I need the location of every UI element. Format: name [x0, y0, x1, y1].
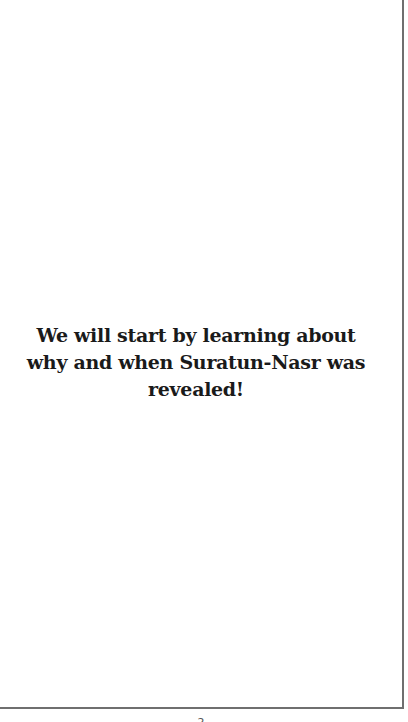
page-body-text: We will start by learning about why and …: [0, 322, 392, 403]
text-line-1: We will start by learning about: [0, 322, 392, 349]
text-line-3: revealed!: [0, 376, 392, 403]
page-number: 2: [194, 716, 208, 722]
text-line-2: why and when Suratun-Nasr was: [0, 349, 392, 376]
